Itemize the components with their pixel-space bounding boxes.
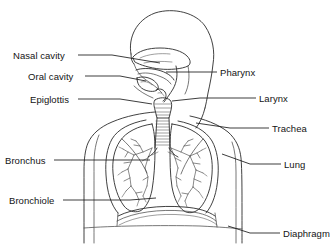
trachea-with-rings (155, 118, 170, 148)
label-pharynx: Pharynx (220, 67, 255, 78)
pharynx-passage (164, 66, 189, 102)
bronchial-tree (148, 148, 178, 157)
label-bronchus: Bronchus (5, 155, 46, 166)
label-epiglottis: Epiglottis (30, 94, 69, 105)
oral-cavity-chamber (134, 69, 174, 99)
chest-cavity-outline (106, 120, 219, 213)
label-bronchiole: Bronchiole (9, 195, 54, 206)
right-lung (170, 124, 212, 213)
label-nasal-cavity: Nasal cavity (13, 50, 65, 61)
diaphragm-dome (117, 206, 217, 227)
epiglottis-flap (156, 89, 166, 101)
nasal-cavity-chamber (133, 48, 190, 69)
label-diaphragm: Diaphragm (283, 228, 330, 239)
label-lung: Lung (284, 159, 305, 170)
label-oral-cavity: Oral cavity (28, 71, 73, 82)
leader-nasal-cavity (78, 55, 160, 63)
leader-lung (222, 154, 281, 164)
leader-trachea (196, 123, 269, 128)
label-larynx: Larynx (259, 93, 288, 104)
leader-epiglottis (78, 99, 152, 104)
leader-larynx (172, 98, 256, 101)
respiratory-system-diagram: Nasal cavity Oral cavity Epiglottis Bron… (0, 0, 333, 246)
leader-bronchiole (63, 198, 156, 200)
label-trachea: Trachea (272, 123, 307, 134)
